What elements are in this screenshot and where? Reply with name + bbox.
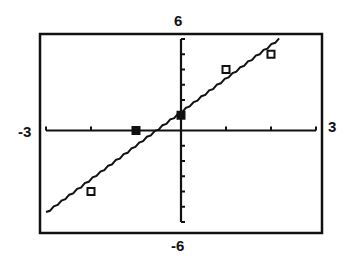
data-point-marker [88,188,95,195]
x-min-label: -3 [18,124,31,139]
regression-line [46,38,279,212]
y-max-label: 6 [174,13,182,28]
data-point-marker [178,112,185,119]
data-point-marker [268,51,275,58]
x-max-label: 3 [328,119,336,134]
data-point-marker [133,127,140,134]
data-point-marker [223,66,230,73]
calculator-graph [0,0,349,257]
y-min-label: -6 [171,238,184,253]
